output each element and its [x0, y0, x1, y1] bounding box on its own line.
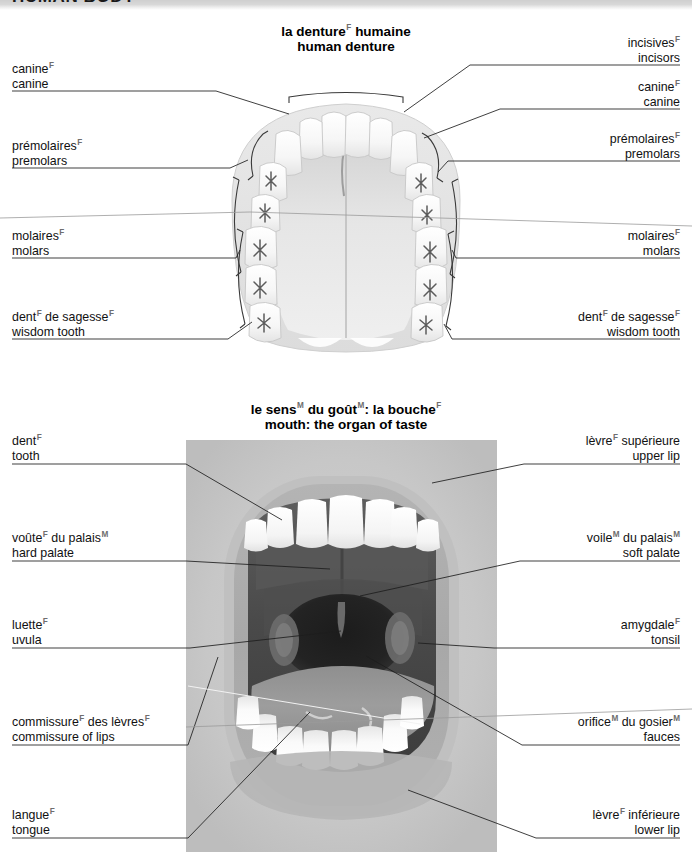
gender-marker: M [613, 530, 620, 539]
gender-marker: F [50, 807, 55, 816]
label-commissure-left: commissureF des lèvresF commissure of li… [12, 711, 150, 746]
dental-arch-illustration [232, 93, 460, 353]
leader-lines-mouth-left [12, 464, 420, 838]
label-hard-palate-left: voûteF du palaisM hard palate [12, 527, 108, 562]
gender-marker: F [37, 433, 42, 442]
label-tonsil-right: amygdaleF tonsil [621, 614, 680, 649]
label-lower-lip-right: lèvreF inférieure lower lip [593, 804, 680, 839]
gender-marker: M [673, 714, 680, 723]
gender-marker: F [675, 617, 680, 626]
label-uvula-left: luetteF uvula [12, 614, 48, 649]
label-tongue-left: langueF tongue [12, 804, 55, 839]
label-fauces-right: orificeM du gosierM fauces [578, 711, 680, 746]
gender-marker: M [673, 530, 680, 539]
label-tooth-left: dentF tooth [12, 430, 42, 465]
gender-marker: F [145, 714, 150, 723]
gender-marker: M [101, 530, 108, 539]
gender-marker: F [43, 617, 48, 626]
leader-lines-mouth-right [186, 464, 692, 838]
label-soft-palate-right: voileM du palaisM soft palate [587, 527, 680, 562]
label-upper-lip-right: lèvreF supérieure upper lip [586, 430, 680, 465]
